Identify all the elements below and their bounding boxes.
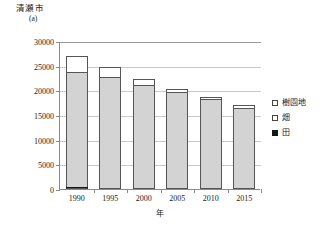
gridline: [60, 116, 261, 117]
y-axis-tick: [56, 141, 60, 142]
gridline: [60, 141, 261, 142]
bar-segment-畑: [200, 99, 222, 189]
bar-segment-畑: [233, 108, 255, 189]
bar-1995[interactable]: [99, 67, 121, 189]
y-axis-label: 15000: [34, 112, 54, 121]
title-block: 清瀬市 (a): [16, 4, 44, 23]
x-axis-tick: [261, 189, 262, 193]
y-axis-tick: [56, 67, 60, 68]
y-axis-label: 20000: [34, 87, 54, 96]
y-axis-label: 25000: [34, 62, 54, 71]
plot-area: 050001000015000200002500030000 199019952…: [59, 42, 260, 190]
y-axis-tick: [56, 190, 60, 191]
legend-swatch-icon: [272, 130, 278, 136]
x-axis-tick: [194, 189, 195, 193]
y-axis-tick: [56, 42, 60, 43]
gridline: [60, 42, 261, 43]
x-axis-tick: [127, 189, 128, 193]
legend-label: 畑: [282, 114, 290, 122]
y-axis-label: 30000: [34, 38, 54, 47]
x-axis-tick: [228, 189, 229, 193]
gridline: [60, 91, 261, 92]
y-axis-label: 5000: [38, 161, 54, 170]
x-axis-label: 2000: [136, 194, 152, 203]
legend-swatch-icon: [272, 115, 278, 121]
chart-figure: 清瀬市 (a) 050001000015000200002500030000 1…: [0, 0, 330, 235]
x-axis-label: 2005: [169, 194, 185, 203]
chart-title: 清瀬市: [16, 4, 44, 14]
bar-segment-畑: [99, 77, 121, 189]
bar-segment-樹園地: [99, 67, 121, 76]
x-axis-title: 年: [156, 207, 164, 218]
legend-item-畑[interactable]: 畑: [272, 114, 306, 122]
y-axis-tick: [56, 165, 60, 166]
bar-1990[interactable]: [66, 56, 88, 189]
y-axis-label: 10000: [34, 136, 54, 145]
bar-segment-畑: [66, 72, 88, 187]
y-axis-tick: [56, 91, 60, 92]
x-axis-tick: [94, 189, 95, 193]
legend-swatch-icon: [272, 100, 278, 106]
x-axis-label: 1990: [69, 194, 85, 203]
chart-legend: 樹園地畑田: [272, 99, 306, 144]
legend-item-樹園地[interactable]: 樹園地: [272, 99, 306, 107]
legend-label: 田: [282, 129, 290, 137]
legend-label: 樹園地: [282, 99, 306, 107]
bar-2000[interactable]: [133, 79, 155, 189]
gridline: [60, 165, 261, 166]
bar-segment-田: [66, 187, 88, 189]
bar-segment-樹園地: [66, 56, 88, 72]
bar-2005[interactable]: [166, 89, 188, 189]
bar-segment-畑: [133, 85, 155, 189]
legend-item-田[interactable]: 田: [272, 129, 306, 137]
x-axis-label: 1995: [102, 194, 118, 203]
gridline: [60, 67, 261, 68]
bar-segment-畑: [166, 92, 188, 189]
x-axis-tick: [161, 189, 162, 193]
y-axis-tick: [56, 116, 60, 117]
x-axis-label: 2015: [236, 194, 252, 203]
bar-2015[interactable]: [233, 105, 255, 189]
chart-unit-label: (a): [29, 15, 44, 24]
x-axis-label: 2010: [203, 194, 219, 203]
y-axis-label: 0: [50, 186, 54, 195]
bar-2010[interactable]: [200, 97, 222, 189]
